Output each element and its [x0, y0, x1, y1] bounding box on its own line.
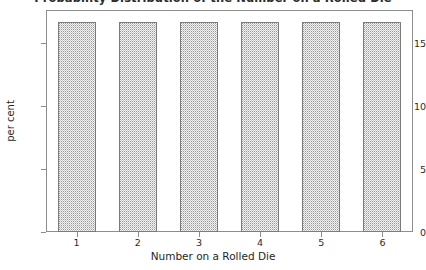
- bar-6: [363, 22, 401, 232]
- y-tick-mark-5: [41, 169, 46, 170]
- bar-1: [58, 22, 96, 232]
- y-tick-label-15: 15: [402, 37, 426, 48]
- x-tick-mark-2: [138, 232, 139, 237]
- plot-area: [46, 10, 413, 232]
- y-tick-mark-0: [41, 232, 46, 233]
- y-tick-mark-10: [41, 106, 46, 107]
- x-tick-mark-5: [321, 232, 322, 237]
- x-tick-mark-1: [77, 232, 78, 237]
- bar-3: [180, 22, 218, 232]
- bar-5: [302, 22, 340, 232]
- x-tick-mark-3: [199, 232, 200, 237]
- chart-title: Probability Distribution of the Number o…: [0, 0, 426, 5]
- x-tick-label-2: 2: [123, 237, 153, 248]
- y-tick-mark-15: [41, 43, 46, 44]
- y-tick-label-0: 0: [402, 227, 426, 238]
- bar-4: [241, 22, 279, 232]
- chart-figure: Probability Distribution of the Number o…: [0, 0, 426, 270]
- y-tick-label-5: 5: [402, 163, 426, 174]
- x-tick-label-1: 1: [62, 237, 92, 248]
- y-axis-label-wrap: per cent: [0, 0, 22, 242]
- x-axis-label: Number on a Rolled Die: [0, 250, 426, 262]
- x-tick-mark-4: [260, 232, 261, 237]
- y-tick-label-10: 10: [402, 100, 426, 111]
- x-tick-label-5: 5: [306, 237, 336, 248]
- x-tick-label-4: 4: [245, 237, 275, 248]
- y-axis-label: per cent: [5, 100, 16, 142]
- x-tick-label-6: 6: [367, 237, 397, 248]
- bar-2: [119, 22, 157, 232]
- x-tick-mark-6: [382, 232, 383, 237]
- x-tick-label-3: 3: [184, 237, 214, 248]
